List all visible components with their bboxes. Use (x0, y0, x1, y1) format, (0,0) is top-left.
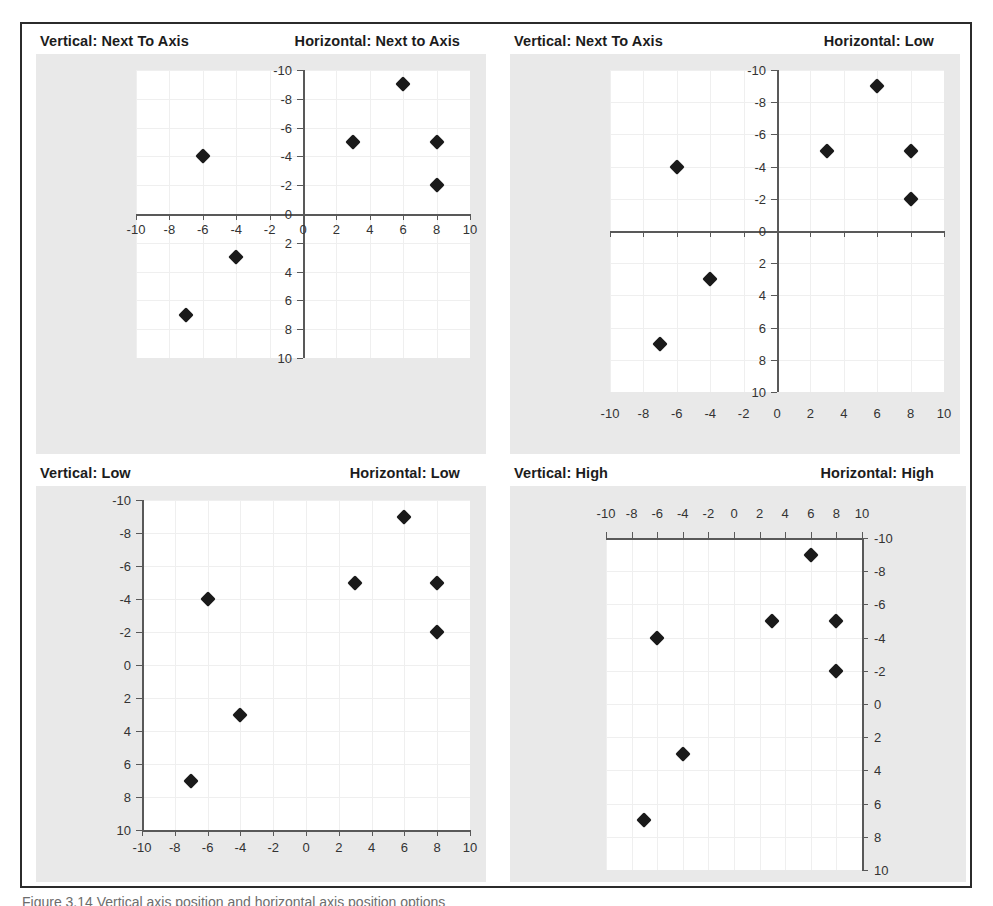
y-axis-tick (862, 837, 868, 838)
y-tick-label: 0 (124, 658, 131, 673)
y-axis-tick (136, 533, 142, 534)
x-axis-tick (169, 214, 170, 220)
y-tick-label: -6 (119, 559, 131, 574)
horizontal-axis-title: Horizontal: High (820, 465, 934, 481)
x-tick-label: 2 (333, 222, 340, 237)
y-axis-tick (862, 571, 868, 572)
y-tick-label: -8 (119, 526, 131, 541)
x-axis-tick (208, 830, 209, 836)
y-axis-tick (136, 764, 142, 765)
x-tick-label: 4 (782, 506, 789, 521)
x-tick-label: 10 (463, 222, 477, 237)
panel-title-row: Vertical: Next To Axis Horizontal: Next … (26, 28, 496, 54)
x-tick-label: -6 (671, 406, 683, 421)
y-axis-tick (771, 167, 777, 168)
y-axis-tick (297, 70, 303, 71)
y-tick-label: -4 (874, 630, 886, 645)
y-axis-tick (862, 671, 868, 672)
y-tick-label: -2 (874, 663, 886, 678)
y-axis-tick (771, 102, 777, 103)
x-axis-tick (303, 214, 304, 220)
x-axis-tick (734, 532, 735, 538)
y-axis-tick (297, 185, 303, 186)
horizontal-axis-title: Horizontal: Low (824, 33, 934, 49)
y-tick-label: -10 (747, 63, 766, 78)
y-axis-tick (136, 665, 142, 666)
x-tick-label: 6 (400, 222, 407, 237)
x-tick-label: 8 (434, 840, 441, 855)
x-tick-label: 2 (335, 840, 342, 855)
x-axis-tick (175, 830, 176, 836)
y-axis-tick (771, 231, 777, 232)
vertical-axis-title: Vertical: Low (40, 465, 131, 481)
y-tick-label: 8 (124, 790, 131, 805)
y-tick-label: -10 (273, 63, 292, 78)
x-axis-tick (760, 532, 761, 538)
y-axis-tick (136, 632, 142, 633)
x-axis-tick (657, 532, 658, 538)
y-axis-tick (136, 566, 142, 567)
y-axis-tick (862, 737, 868, 738)
x-axis-tick (136, 214, 137, 220)
x-tick-label: 10 (855, 506, 869, 521)
y-axis-tick (862, 704, 868, 705)
y-tick-label: 6 (759, 320, 766, 335)
chart-panel-bottom-left: Vertical: Low Horizontal: Low -10-8-6-4-… (26, 460, 496, 886)
x-tick-label: -2 (738, 406, 750, 421)
x-axis-tick (610, 231, 611, 237)
x-tick-label: -4 (704, 406, 716, 421)
x-tick-label: -8 (626, 506, 638, 521)
y-tick-label: 8 (285, 322, 292, 337)
x-tick-label: -8 (169, 840, 181, 855)
x-axis-tick (372, 830, 373, 836)
x-axis-tick (785, 532, 786, 538)
chart-panel-bottom-right: Vertical: High Horizontal: High -10-8-6-… (500, 460, 970, 886)
y-axis-tick (862, 770, 868, 771)
y-axis-tick (136, 599, 142, 600)
vertical-axis-title: Vertical: High (514, 465, 608, 481)
y-axis-line (142, 500, 144, 830)
y-tick-label: 10 (874, 863, 888, 878)
x-axis-tick (708, 532, 709, 538)
y-axis-tick (862, 604, 868, 605)
y-tick-label: 4 (874, 763, 881, 778)
x-tick-label: -2 (703, 506, 715, 521)
y-tick-label: -8 (280, 91, 292, 106)
x-tick-label: 6 (401, 840, 408, 855)
y-tick-label: -4 (119, 592, 131, 607)
panel-title-row: Vertical: High Horizontal: High (500, 460, 970, 486)
x-tick-label: 0 (302, 840, 309, 855)
y-tick-label: 10 (278, 351, 292, 366)
x-tick-label: -8 (638, 406, 650, 421)
chart-area-top-right: -10-8-6-4-202468101086420-2-4-6-8-10 (510, 54, 960, 454)
x-axis-tick (877, 231, 878, 237)
x-tick-label: -2 (267, 840, 279, 855)
x-tick-label: 6 (807, 506, 814, 521)
x-tick-label: -10 (133, 840, 152, 855)
panel-title-row: Vertical: Low Horizontal: Low (26, 460, 496, 486)
x-axis-tick (632, 532, 633, 538)
y-tick-label: -6 (874, 597, 886, 612)
y-axis-tick (136, 731, 142, 732)
x-axis-tick (142, 830, 143, 836)
x-axis-tick (844, 231, 845, 237)
x-tick-label: 4 (366, 222, 373, 237)
horizontal-axis-title: Horizontal: Low (350, 465, 460, 481)
y-tick-label: 8 (759, 352, 766, 367)
x-axis-tick (437, 830, 438, 836)
x-axis-tick (203, 214, 204, 220)
y-tick-label: -8 (874, 564, 886, 579)
y-axis-tick (297, 243, 303, 244)
y-tick-label: 10 (117, 823, 131, 838)
x-tick-label: -6 (197, 222, 209, 237)
x-axis-tick (677, 231, 678, 237)
x-axis-tick (470, 830, 471, 836)
x-axis-tick (777, 231, 778, 237)
x-axis-tick (643, 231, 644, 237)
x-axis-tick (836, 532, 837, 538)
x-tick-label: 10 (937, 406, 951, 421)
y-tick-label: -6 (280, 120, 292, 135)
x-tick-label: -4 (230, 222, 242, 237)
x-axis-tick (339, 830, 340, 836)
y-tick-label: 0 (759, 224, 766, 239)
